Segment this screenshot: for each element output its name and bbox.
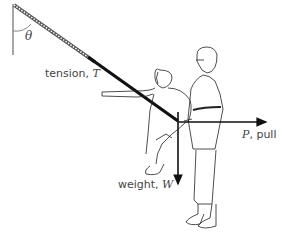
weight-symbol: W [162,178,173,191]
weight-label: weight, W [118,179,173,190]
tension-symbol: T [93,67,100,80]
tension-label: tension, T [45,68,100,79]
tension-vector [88,57,178,121]
pull-label: P, pull [242,129,276,140]
angle-theta-label: θ [25,30,32,42]
diagram-canvas [0,0,285,242]
standing-person [184,47,223,228]
tension-label-text: tension, [45,67,93,80]
weight-label-text: weight, [118,178,162,191]
pull-label-text: , pull [249,128,276,141]
